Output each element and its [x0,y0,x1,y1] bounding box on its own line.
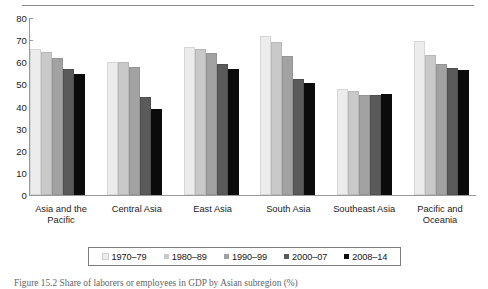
bar-group [337,18,399,195]
bar [206,53,217,195]
legend-item[interactable]: 1990–99 [224,252,267,262]
bar-groups [30,18,476,195]
bar [151,109,162,195]
bar [447,68,458,195]
x-axis-line [29,195,476,196]
bar-group [184,18,246,195]
bar-group [414,18,476,195]
bar [304,83,315,195]
bar-group [107,18,169,195]
y-tick-mark [29,195,33,196]
legend-label: 2008–14 [352,252,387,262]
bar [425,55,436,195]
bar [140,97,151,195]
x-category-label: East Asia [177,204,249,232]
legend-label: 1980–89 [172,252,207,262]
x-category-label: Asia and the Pacific [25,204,97,232]
bar [63,69,74,195]
x-category-label: Pacific and Oceania [404,204,476,232]
x-category-label: South Asia [252,204,324,232]
bar [129,67,140,195]
y-tick-label: 0 [22,190,27,201]
figure-container: 01020304050607080 Asia and the PacificCe… [0,0,488,289]
legend-label: 1970–79 [112,252,147,262]
bar [118,62,129,195]
bar [293,79,304,195]
bar [184,47,195,195]
legend-swatch-icon [344,254,349,259]
bar [260,36,271,195]
legend-item[interactable]: 1980–89 [164,252,207,262]
legend-label: 2000–07 [292,252,327,262]
legend-item[interactable]: 2008–14 [344,252,387,262]
legend-swatch-icon [284,254,289,259]
bar [381,94,392,195]
bar [436,64,447,195]
bar [282,56,293,195]
bar [107,62,118,195]
bar [74,74,85,195]
legend-label: 1990–99 [232,252,267,262]
bar [458,70,469,195]
x-category-label: Southeast Asia [328,204,400,232]
x-category-label: Central Asia [101,204,173,232]
bar [370,95,381,195]
legend-swatch-icon [224,254,229,259]
legend-item[interactable]: 1970–79 [102,252,147,262]
bar [41,52,52,195]
legend-item[interactable]: 2000–07 [284,252,327,262]
bar-group [30,18,92,195]
bar [359,95,370,195]
x-axis-category-labels: Asia and the PacificCentral AsiaEast Asi… [30,204,476,232]
bar [217,64,228,195]
plot-area: 01020304050607080 [0,14,488,202]
bar [228,69,239,195]
bar [271,42,282,195]
y-tick-label: 10 [16,167,27,178]
legend-swatch-icon [102,253,109,260]
y-tick-label: 80 [16,13,27,24]
bar [337,89,348,195]
bar [195,49,206,195]
top-divider [22,5,474,6]
figure-caption: Figure 15.2 Share of laborers or employe… [14,278,476,288]
chart-legend: 1970–791980–891990–992000–072008–14 [88,247,401,266]
y-tick-label: 40 [16,101,27,112]
legend-swatch-icon [164,254,169,259]
y-tick-label: 60 [16,57,27,68]
bar [52,58,63,195]
y-tick-label: 20 [16,145,27,156]
bar-group [260,18,322,195]
bar [30,49,41,195]
bar [414,41,425,195]
y-tick-label: 70 [16,35,27,46]
y-tick-label: 30 [16,123,27,134]
bar [348,91,359,195]
y-tick-label: 50 [16,79,27,90]
